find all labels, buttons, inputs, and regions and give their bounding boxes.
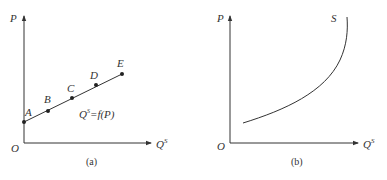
- supply-curve-b: [243, 17, 347, 123]
- x-axis-label-a: QS: [156, 137, 168, 150]
- point-a: [22, 120, 26, 124]
- x-axis-label-b: QS: [363, 137, 375, 150]
- caption-a: (a): [86, 156, 97, 168]
- point-b: [46, 109, 50, 113]
- point-label-b: B: [44, 93, 51, 105]
- point-e: [120, 72, 124, 76]
- origin-label-b: O: [217, 140, 225, 152]
- point-label-d: D: [89, 69, 98, 81]
- supply-curves-figure: P O QS A B C D E QS=f(P) (a) P O QS S (b…: [0, 0, 387, 180]
- point-label-c: C: [67, 82, 75, 94]
- y-axis-label-a: P: [9, 12, 17, 24]
- point-label-a: A: [24, 106, 32, 118]
- origin-label-a: O: [11, 142, 19, 154]
- point-d: [94, 83, 98, 87]
- point-c: [70, 96, 74, 100]
- y-axis-label-b: P: [216, 12, 224, 24]
- caption-b: (b): [291, 156, 303, 168]
- supply-function-label: QS=f(P): [79, 108, 115, 121]
- panel-b: P O QS S (b): [216, 12, 375, 168]
- figure-svg: P O QS A B C D E QS=f(P) (a) P O QS S (b…: [0, 0, 387, 180]
- panel-a: P O QS A B C D E QS=f(P) (a): [9, 12, 168, 168]
- curve-label-s: S: [331, 12, 337, 24]
- point-label-e: E: [116, 57, 124, 69]
